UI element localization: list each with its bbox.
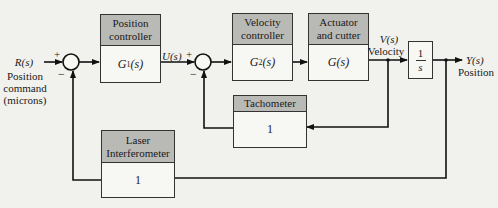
v-signal-label: V(s) — [374, 33, 404, 45]
block-transfer-function: G1(s) — [101, 46, 160, 82]
input-signal-label: R(s) — [6, 56, 42, 68]
block-transfer-function: 1 — [234, 112, 306, 147]
block-title: Velocity — [244, 16, 281, 29]
u-signal-label: U(s) — [162, 50, 182, 62]
input-caption-3: (microns) — [0, 94, 50, 106]
integrator-numerator: 1 — [418, 48, 424, 59]
block-title: Tachometer — [234, 96, 306, 112]
input-caption-2: command — [0, 82, 50, 94]
block-title: Actuator — [319, 16, 357, 29]
sum2-plus-sign: + — [186, 48, 192, 60]
block-transfer-function: G2(s) — [233, 45, 292, 80]
velocity-controller-block: Velocity controller G2(s) — [232, 13, 293, 81]
v-signal-caption: Velocity — [366, 45, 406, 57]
block-transfer-function: G(s) — [309, 45, 368, 80]
sum1-minus-sign: − — [58, 68, 65, 80]
integrator-block: 1 s — [408, 41, 433, 79]
sum1-plus-sign: + — [54, 48, 60, 60]
output-caption: Position — [454, 66, 498, 78]
block-title: Interferometer — [106, 147, 170, 160]
output-signal-label: Y(s) — [466, 54, 484, 66]
block-transfer-function: 1 — [102, 163, 174, 197]
laser-interferometer-block: Laser Interferometer 1 — [101, 130, 175, 198]
position-controller-block: Position controller G1(s) — [100, 14, 161, 83]
integrator-denominator: s — [418, 62, 422, 73]
block-title: controller — [109, 30, 152, 43]
tachometer-block: Tachometer 1 — [233, 95, 307, 148]
input-caption-1: Position — [0, 70, 50, 82]
block-title: Laser — [126, 134, 150, 147]
block-title: and cutter — [317, 29, 361, 42]
block-title: Position — [112, 17, 148, 30]
actuator-cutter-block: Actuator and cutter G(s) — [308, 13, 369, 81]
sum2-minus-sign: − — [190, 68, 197, 80]
block-title: controller — [241, 29, 284, 42]
